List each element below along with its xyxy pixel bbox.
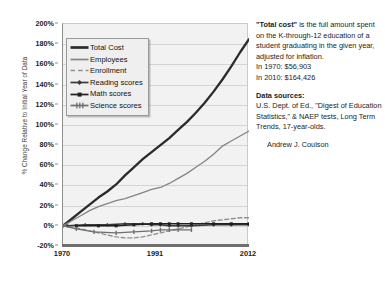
legend-swatch-icon <box>70 89 89 100</box>
x-tick-mark <box>155 244 156 247</box>
y-tick-mark <box>55 245 58 246</box>
legend-item-math-scores[interactable]: Math scores <box>70 88 143 100</box>
legend-swatch-icon <box>70 65 89 76</box>
y-tick-label: 180% <box>36 39 54 48</box>
data-point-marker <box>248 222 250 225</box>
y-tick-label: 120% <box>36 99 54 108</box>
data-point-marker <box>177 222 180 225</box>
legend-item-reading-scores[interactable]: Reading scores <box>70 77 143 89</box>
data-point-marker <box>190 222 193 225</box>
x-tick-mark <box>62 244 63 247</box>
data-point-marker <box>169 228 170 232</box>
series-employees <box>63 131 249 226</box>
legend-item-label: Enrollment <box>90 67 126 75</box>
x-tick-label: 1970 <box>54 249 70 258</box>
data-point-marker <box>133 230 134 234</box>
data-point-marker <box>93 230 94 234</box>
data-point-marker <box>150 222 153 225</box>
y-tick-label: 0% <box>44 220 54 229</box>
data-point-marker <box>115 224 118 227</box>
note-definition: "Total cost" is the full amount spent on… <box>256 20 382 62</box>
line-chart: % Change Relative to Initial Year of Dat… <box>0 0 250 283</box>
y-axis-ticks: 200%180%160%140%120%100%80%60%40%20%0%-2… <box>8 23 58 245</box>
note-sources-body: U.S. Dept. of Ed., "Digest of Education … <box>256 101 382 133</box>
legend-swatch-icon <box>70 77 89 88</box>
legend-item-employees[interactable]: Employees <box>70 54 143 66</box>
y-tick-label: -20% <box>37 241 54 250</box>
note-figure-2010: In 2010: $164,426 <box>256 73 382 84</box>
chart-legend: Total CostEmployeesEnrollmentReading sco… <box>66 38 149 116</box>
y-tick-mark <box>55 184 58 185</box>
y-tick-label: 160% <box>36 59 54 68</box>
y-tick-mark <box>55 43 58 44</box>
data-point-marker <box>212 222 215 225</box>
y-tick-mark <box>55 83 58 84</box>
y-tick-label: 200% <box>36 19 54 28</box>
legend-swatch-icon <box>70 100 89 111</box>
legend-item-enrollment[interactable]: Enrollment <box>70 65 143 77</box>
data-point-marker <box>177 228 178 232</box>
y-tick-label: 40% <box>40 180 54 189</box>
legend-item-science-scores[interactable]: Science scores <box>70 100 143 112</box>
data-point-marker <box>191 228 192 232</box>
note-sources-heading: Data sources: <box>256 91 382 102</box>
data-point-marker <box>159 222 162 225</box>
chart-page: % Change Relative to Initial Year of Dat… <box>0 0 385 283</box>
y-tick-mark <box>55 224 58 225</box>
y-tick-mark <box>55 63 58 64</box>
y-tick-mark <box>55 144 58 145</box>
data-point-marker <box>76 227 77 231</box>
legend-item-label: Math scores <box>90 90 131 98</box>
legend-item-label: Science scores <box>90 102 142 110</box>
legend-swatch-icon <box>70 42 89 53</box>
note-figure-1970: In 1970: $56,903 <box>256 62 382 73</box>
y-tick-label: 80% <box>40 140 54 149</box>
y-tick-label: 100% <box>36 119 54 128</box>
x-axis-ticks: 197019912012 <box>62 249 249 263</box>
data-point-marker <box>168 222 171 225</box>
legend-item-label: Employees <box>90 56 128 64</box>
note-spacer-2 <box>256 133 382 140</box>
data-point-marker <box>151 229 152 233</box>
data-point-marker <box>230 222 233 225</box>
y-tick-label: 60% <box>40 160 54 169</box>
explanatory-notes: "Total cost" is the full amount spent on… <box>256 20 382 151</box>
series-reading-scores <box>66 222 249 228</box>
y-tick-mark <box>55 123 58 124</box>
data-point-marker <box>160 228 161 232</box>
note-author: Andrew J. Coulson <box>256 140 382 151</box>
legend-item-total-cost[interactable]: Total Cost <box>70 42 143 54</box>
legend-item-label: Total Cost <box>90 44 124 52</box>
legend-item-label: Reading scores <box>90 79 143 87</box>
y-tick-label: 140% <box>36 79 54 88</box>
data-point-marker <box>97 224 100 227</box>
y-tick-mark <box>55 23 58 24</box>
note-definition-term: "Total cost" <box>256 20 297 29</box>
legend-swatch-icon <box>70 54 89 65</box>
x-tick-mark <box>248 244 249 247</box>
note-spacer <box>256 84 382 91</box>
data-point-marker <box>115 231 116 235</box>
data-point-marker <box>63 224 64 228</box>
y-tick-mark <box>55 204 58 205</box>
series-enrollment <box>63 218 249 238</box>
y-tick-mark <box>55 164 58 165</box>
x-tick-label: 2012 <box>240 249 256 258</box>
y-tick-label: 20% <box>40 200 54 209</box>
data-point-marker <box>132 223 135 226</box>
x-tick-label: 1991 <box>147 249 163 258</box>
y-tick-mark <box>55 103 58 104</box>
